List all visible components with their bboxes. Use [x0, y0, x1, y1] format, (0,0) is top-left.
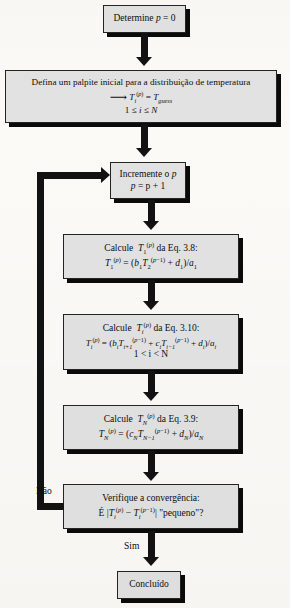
arrowhead-convergence [143, 472, 159, 481]
connector-increment-to-calc-t1 [148, 200, 155, 222]
edge-label-no: Não [36, 486, 52, 496]
arrowhead-done [143, 557, 159, 566]
check-convergence-formula: É |Ti(p) − Ti(p−1)| "pequeno"? [99, 508, 204, 520]
flowchart-page: Determine p = 0 Defina um palpite inicia… [0, 0, 290, 608]
calculate-ti-title: Calcule Ti(p) da Eq. 3.10: [103, 323, 200, 335]
determine-p-box[interactable]: Determine p = 0 [103, 5, 186, 33]
calculate-tn-box[interactable]: Calcule TN(p) da Eq. 3.9: TN(p) = (cNTN−… [63, 405, 239, 450]
calculate-tn-title: Calcule TN(p) da Eq. 3.9: [104, 414, 198, 426]
check-convergence-title: Verifique a convergência: [102, 493, 199, 505]
loop-segment-top [37, 172, 103, 179]
arrowhead-guess [136, 57, 152, 66]
determine-p-text: Determine p = 0 [113, 13, 175, 25]
arrowhead-calc-t1 [143, 221, 159, 230]
initial-guess-title: Defina um palpite inicial para a distrib… [32, 77, 251, 88]
arrowhead-increment [136, 148, 152, 157]
done-box[interactable]: Concluído [117, 571, 181, 599]
calculate-t1-box[interactable]: Calcule T1(p) da Eq. 3.8: T1(p) = (b1T2(… [63, 234, 239, 279]
calculate-ti-formula: Ti(p) = (biTi+1(p−1) + ciTi−1(p−1) + di)… [86, 338, 217, 349]
connector-calc-tn-to-convergence [148, 451, 155, 473]
initial-guess-formula: ⟶ Ti(p) = Tguess [110, 90, 172, 105]
calculate-ti-range: 1 < i < N [134, 349, 168, 361]
calculate-t1-formula: T1(p) = (b1T2(p−1) + d1)/a1 [105, 258, 197, 270]
arrowhead-calc-ti [143, 301, 159, 310]
calculate-t1-title: Calcule T1(p) da Eq. 3.8: [104, 243, 197, 255]
connector-calc-ti-to-calc-tn [148, 371, 155, 393]
connector-calc-t1-to-calc-ti [148, 280, 155, 302]
check-convergence-box[interactable]: Verifique a convergência: É |Ti(p) − Ti(… [63, 484, 239, 529]
arrowhead-calc-tn [143, 392, 159, 401]
edge-label-yes: Sim [124, 541, 139, 551]
increment-p-title: Incremente o p [120, 169, 177, 181]
connector-convergence-to-done [148, 531, 155, 558]
loop-segment-vertical [37, 172, 44, 510]
connector-determine-to-guess [141, 33, 148, 58]
done-text: Concluído [129, 579, 169, 591]
increment-p-formula: p = p + 1 [131, 181, 165, 193]
initial-guess-range: 1 ≤ i ≤ N [125, 105, 158, 116]
initial-guess-box[interactable]: Defina um palpite inicial para a distrib… [5, 70, 277, 123]
calculate-ti-box[interactable]: Calcule Ti(p) da Eq. 3.10: Ti(p) = (biTi… [63, 314, 239, 370]
calculate-tn-formula: TN(p) = (cNTN−1(p−1) + dN)/aN [99, 429, 204, 441]
arrowhead-loop-into-increment [101, 167, 110, 183]
increment-p-box[interactable]: Incremente o p p = p + 1 [110, 162, 186, 199]
connector-guess-to-increment [141, 124, 148, 149]
